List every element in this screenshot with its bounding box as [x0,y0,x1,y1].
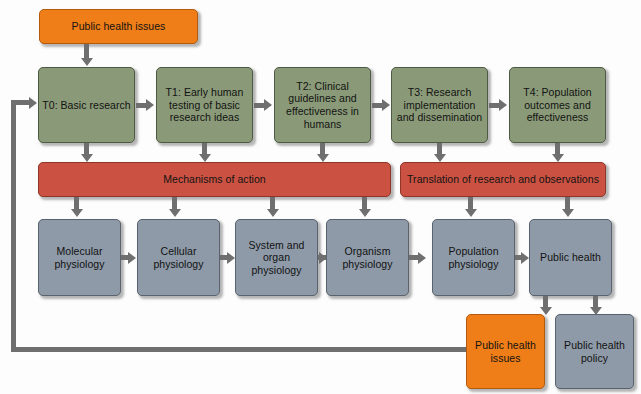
connector-t2-to-t3-arrowhead [382,99,390,111]
connector-molecular-to-cellular-arrowhead [128,252,136,264]
node-level-molecular[interactable]: Molecular physiology [38,219,121,296]
node-label: T1: Early human testing of basic researc… [160,86,249,124]
feedback-loop-bottom [11,347,466,352]
connector-t3-to-t4-arrowhead [499,99,507,111]
node-public-health-issues-top[interactable]: Public health issues [39,9,198,44]
node-label: Public health issues [470,339,541,364]
connector-t1-to-mechanisms-arrowhead [199,154,211,162]
connector-system-organ-to-organism-arrowhead [319,252,327,264]
connector-population-to-public-health-arrowhead [521,252,529,264]
connector-t0-to-mechanisms-arrowhead [81,154,93,162]
node-level-public-health[interactable]: Public health [529,219,612,296]
node-label: Molecular physiology [42,245,117,270]
node-label: Public health [540,251,601,264]
node-phase-t0[interactable]: T0: Basic research [38,67,135,143]
node-label: Cellular physiology [141,245,216,270]
node-public-health-policy[interactable]: Public health policy [555,314,634,389]
node-phase-t1[interactable]: T1: Early human testing of basic researc… [156,67,253,143]
node-label: T3: Research implementation and dissemin… [395,86,484,124]
connector-mechanisms-to-molecular-arrowhead [71,209,83,217]
connector-t3-to-translation-arrowhead [434,154,446,162]
node-label: Translation of research and observations [407,173,599,186]
connector-t1-to-t2-arrowhead [264,99,272,111]
connector-cellular-to-system-organ-arrowhead [227,252,235,264]
connector-t4-to-translation-arrowhead [552,154,564,162]
node-level-system-organ[interactable]: System and organ physiology [235,219,318,296]
node-phase-t3[interactable]: T3: Research implementation and dissemin… [391,67,488,143]
node-label: Organism physiology [330,245,405,270]
node-level-population[interactable]: Population physiology [432,219,515,296]
connector-translation-to-population-arrowhead [465,209,477,217]
feedback-loop-vertical [11,100,16,352]
node-band-mechanisms[interactable]: Mechanisms of action [38,162,391,197]
feedback-loop-arrowhead [29,97,37,109]
node-label: Public health issues [72,20,166,33]
connector-input-to-t0 [84,44,89,59]
node-label: Population physiology [436,245,511,270]
connector-mechanisms-to-system-organ-arrowhead [267,209,279,217]
node-label: T4: Population outcomes and effectivenes… [513,86,602,124]
node-band-translation[interactable]: Translation of research and observations [400,162,606,197]
node-label: T0: Basic research [42,99,130,112]
node-label: Public health policy [559,339,630,364]
connector-translation-to-public-health-arrowhead [562,209,574,217]
node-phase-t4[interactable]: T4: Population outcomes and effectivenes… [509,67,606,143]
node-label: System and organ physiology [239,239,314,277]
feedback-loop-top [11,100,31,105]
connector-input-to-t0-arrowhead [81,58,93,66]
diagram-canvas: Public health issues T0: Basic research … [0,0,641,394]
node-label: Mechanisms of action [163,173,266,186]
node-label: T2: Clinical guidelines and effectivenes… [278,80,367,130]
connector-mechanisms-to-cellular-arrowhead [169,209,181,217]
node-level-cellular[interactable]: Cellular physiology [137,219,220,296]
connector-t0-to-t1-arrowhead [146,99,154,111]
node-public-health-issues-bottom[interactable]: Public health issues [466,314,545,389]
node-level-organism[interactable]: Organism physiology [326,219,409,296]
node-phase-t2[interactable]: T2: Clinical guidelines and effectivenes… [274,67,371,143]
connector-mechanisms-to-organism-arrowhead [359,209,371,217]
connector-organism-to-population-arrowhead [418,252,426,264]
connector-t2-to-mechanisms-arrowhead [317,154,329,162]
